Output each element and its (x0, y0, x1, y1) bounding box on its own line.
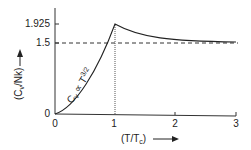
x-tick-label-3: 3 (233, 118, 239, 129)
svg-text:(Cv/Nk): (Cv/Nk) (13, 68, 25, 100)
chart: 1.925 1.5 0 0 1 2 3 (T/Tc) (Cv/Nk) Cv ∝ … (0, 0, 251, 150)
x-axis-label: (T/Tc) (121, 133, 146, 145)
y-tick-label-0: 0 (44, 108, 50, 119)
x-axis (55, 114, 236, 116)
y-tick-label-1925: 1.925 (25, 18, 50, 29)
x-arrow-icon (172, 136, 179, 142)
axes (55, 8, 236, 116)
x-tick-label-2: 2 (172, 118, 178, 129)
curve-annotation: Cv ∝ T3/2 (64, 66, 96, 106)
y-axis-label: (Cv/Nk) (13, 68, 25, 100)
svg-text:Cv ∝ T3/2: Cv ∝ T3/2 (64, 66, 96, 106)
x-tick-label-1: 1 (111, 118, 117, 129)
x-tick-label-0: 0 (52, 118, 58, 129)
y-tick-label-15: 1.5 (36, 37, 50, 48)
y-arrow-icon (17, 49, 23, 57)
